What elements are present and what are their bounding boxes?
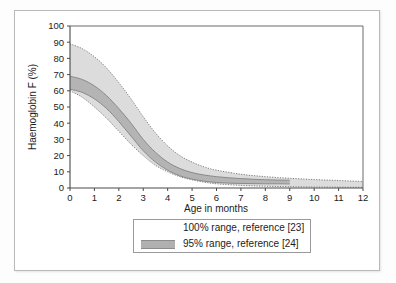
x-tick-label: 1	[92, 192, 97, 203]
y-tick-label: 20	[53, 150, 64, 161]
y-axis-title: Haemoglobin F (%)	[27, 64, 38, 150]
y-tick-label: 90	[53, 37, 64, 48]
x-tick-label: 11	[334, 192, 344, 203]
y-tick-label: 60	[53, 85, 64, 96]
x-tick-label: 0	[67, 192, 72, 203]
y-tick-label: 100	[48, 20, 64, 31]
y-axis-ticks: 0102030405060708090100	[48, 20, 70, 193]
legend-swatch-dotted-icon	[141, 225, 175, 232]
x-tick-label: 7	[238, 192, 243, 203]
x-tick-label: 5	[189, 192, 194, 203]
y-tick-label: 80	[53, 53, 64, 64]
legend-label-95-range: 95% range, reference [24]	[183, 239, 299, 249]
x-tick-label: 9	[287, 192, 292, 203]
legend-label-100-range: 100% range, reference [23]	[183, 223, 304, 233]
x-tick-label: 3	[141, 192, 146, 203]
legend-item-100-range: 100% range, reference [23]	[134, 220, 310, 236]
chart-legend: 100% range, reference [23] 95% range, re…	[133, 219, 311, 253]
x-tick-label: 12	[358, 192, 369, 203]
x-tick-label: 2	[116, 192, 121, 203]
y-tick-label: 40	[53, 118, 64, 129]
y-tick-label: 70	[53, 69, 64, 80]
x-tick-label: 10	[309, 192, 320, 203]
x-tick-label: 4	[165, 192, 170, 203]
x-tick-label: 8	[263, 192, 268, 203]
legend-item-95-range: 95% range, reference [24]	[134, 236, 310, 252]
x-tick-label: 6	[214, 192, 219, 203]
y-tick-label: 30	[53, 134, 64, 145]
figure-container: 0102030405060708090100 0123456789101112 …	[0, 0, 396, 283]
legend-swatch-solid-icon	[141, 240, 175, 249]
x-axis-title: Age in months	[184, 203, 248, 214]
y-tick-label: 50	[53, 101, 64, 112]
y-tick-label: 0	[59, 182, 64, 193]
x-axis-ticks: 0123456789101112	[67, 188, 368, 203]
y-tick-label: 10	[53, 166, 64, 177]
